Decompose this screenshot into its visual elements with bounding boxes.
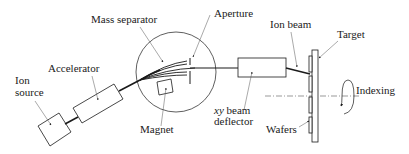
ion-source-box	[38, 113, 71, 146]
label-magnet: Magnet	[140, 123, 174, 135]
mass-separator-circle	[136, 32, 216, 112]
wafers	[309, 56, 312, 133]
ion-implanter-diagram: Ion source Accelerator Mass separator Ap…	[0, 0, 409, 154]
label-mass-separator: Mass separator	[91, 13, 158, 25]
label-target: Target	[337, 28, 365, 40]
magnet-box	[157, 79, 173, 95]
label-accelerator: Accelerator	[48, 62, 100, 74]
separated-beams	[140, 61, 195, 80]
ion-beam	[286, 68, 310, 74]
accelerator-box	[73, 84, 123, 123]
label-wafers: Wafers	[266, 123, 297, 135]
label-ion-beam: Ion beam	[270, 18, 312, 30]
label-ion-source: Ion	[15, 74, 30, 86]
label-indexing: Indexing	[356, 84, 396, 96]
label-aperture: Aperture	[214, 7, 253, 19]
indexing-rotation-icon	[341, 80, 354, 114]
label-deflector: deflector	[214, 115, 253, 127]
beam-segment-1	[65, 117, 78, 124]
target-plate	[312, 50, 318, 142]
xy-beam-deflector-box	[238, 58, 286, 77]
label-ion-source-2: source	[15, 86, 44, 98]
